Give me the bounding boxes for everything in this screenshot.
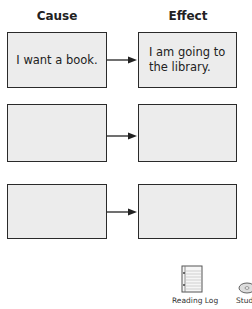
effect-box-2 (138, 104, 237, 162)
arrow-icon (107, 131, 138, 141)
arrow-icon (107, 55, 138, 65)
reading-log-label: Reading Log (172, 296, 218, 305)
student-cd-icon (238, 282, 252, 294)
effect-box-1: I am going to the library. (138, 32, 237, 88)
cause-box-3 (7, 184, 107, 239)
cause-box-1: I want a book. (7, 32, 107, 88)
effect-box-3 (138, 184, 237, 239)
cause-box-2 (7, 104, 107, 162)
student-cd-label: Stud (236, 296, 252, 305)
arrow-icon (107, 207, 138, 217)
effect-header: Effect (138, 9, 238, 23)
reading-log-icon (181, 265, 203, 293)
cause-header: Cause (7, 9, 107, 23)
